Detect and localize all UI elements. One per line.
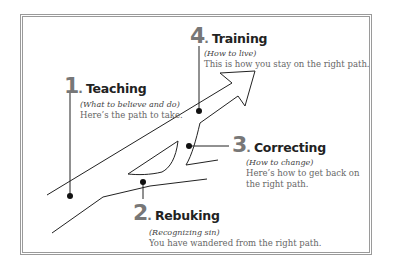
step-number: 4: [190, 25, 204, 47]
step-number-period: .: [246, 141, 251, 155]
step-body-line: the right path.: [246, 179, 359, 190]
step-number: 3: [232, 134, 246, 156]
step-rebuking: 2 . Rebuking (Recognizing sin) You have …: [133, 202, 321, 249]
step-body-line: You have wandered from the right path.: [149, 238, 321, 249]
main-path-lower-edge: [200, 96, 238, 123]
step-body-line: Here’s how to get back on: [246, 168, 359, 179]
step-body-line: This is how you stay on the right path.: [204, 59, 370, 70]
step-number: 2: [133, 202, 147, 224]
marker-dot-correcting: [186, 143, 192, 149]
step-training: 4 . Training (How to live) This is how y…: [190, 25, 370, 70]
step-title: Training: [212, 31, 267, 46]
marker-dot-training: [196, 108, 202, 114]
step-body-line: Here’s the path to take.: [80, 110, 183, 121]
step-number-period: .: [147, 209, 152, 223]
step-number-period: .: [78, 82, 83, 96]
marker-dot-teaching: [67, 193, 73, 199]
step-subtitle: (How to change): [246, 158, 359, 168]
step-subtitle: (Recognizing sin): [149, 228, 321, 238]
step-title: Correcting: [254, 140, 326, 155]
marker-dot-rebuking: [140, 179, 146, 185]
wedge-branch: [128, 141, 178, 175]
arrowhead-icon: [220, 71, 255, 106]
step-title: Rebuking: [155, 208, 220, 223]
step-subtitle: (What to believe and do): [80, 100, 183, 110]
step-number-period: .: [204, 32, 209, 46]
step-correcting: 3 . Correcting (How to change) Here’s ho…: [232, 134, 359, 189]
step-number: 1: [64, 75, 78, 97]
step-teaching: 1 . Teaching (What to believe and do) He…: [64, 75, 183, 121]
step-title: Teaching: [86, 81, 147, 96]
step-subtitle: (How to live): [204, 49, 370, 59]
